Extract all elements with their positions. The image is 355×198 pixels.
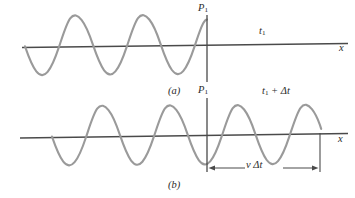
point-label-p1-upper: P1	[198, 3, 208, 14]
panel-tag-b: (b)	[168, 180, 180, 191]
time-label-t1-plus-delta-t: t1 + Δt	[262, 86, 290, 97]
measurement-label-v-delta-t: v Δt	[246, 160, 262, 171]
vdt-dimension-arrow	[209, 165, 319, 170]
axis-label-x-lower: x	[338, 134, 343, 145]
point-label-p1-lower: P1	[198, 85, 208, 96]
figure-canvas	[0, 0, 355, 198]
axis-label-x-upper: x	[339, 43, 344, 54]
time-label-t1: t1	[259, 26, 265, 37]
panel-tag-a: (a)	[168, 86, 180, 97]
x-axis-upper	[22, 44, 348, 48]
wave-propagation-figure: P1 t1 x (a) P1 t1 + Δt x v Δt (b)	[0, 0, 355, 198]
x-axis-lower	[20, 134, 348, 139]
